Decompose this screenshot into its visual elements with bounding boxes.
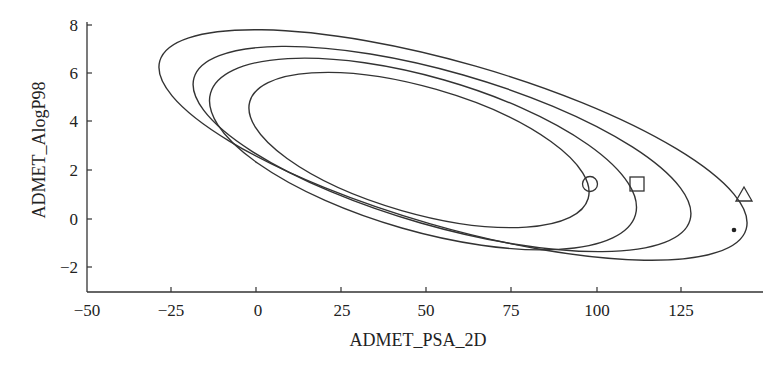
ellipse-2	[173, 4, 711, 294]
dot-marker	[732, 228, 737, 233]
circle-marker	[583, 177, 598, 192]
x-tick-label: 75	[503, 301, 520, 320]
y-tick-label: 0	[70, 210, 79, 229]
y-tick-label: 8	[70, 16, 79, 35]
x-tick-label: 0	[254, 301, 263, 320]
ellipse-3	[189, 19, 656, 289]
x-tick-label: 25	[334, 301, 351, 320]
x-tick-label: 125	[668, 301, 694, 320]
x-axis-title: ADMET_PSA_2D	[349, 330, 486, 350]
x-tick-label: −50	[74, 301, 101, 320]
x-ticks	[171, 287, 681, 292]
axes	[87, 22, 763, 292]
y-tick-label: 4	[70, 112, 79, 131]
y-tick-label: −2	[60, 258, 78, 277]
y-tick-label: 2	[70, 161, 79, 180]
x-tick-label: 100	[584, 301, 610, 320]
y-ticks	[87, 25, 92, 267]
chart-canvas: 8 6 4 2 0 −2 −50 −25 0 25 50 75 100 125 …	[0, 0, 782, 375]
y-axis-title: ADMET_AlogP98	[29, 81, 49, 218]
y-tick-label: 6	[70, 64, 79, 83]
x-tick-labels: −50 −25 0 25 50 75 100 125	[74, 301, 694, 320]
ellipse-outer	[137, 0, 769, 308]
ellipses	[137, 0, 769, 308]
markers	[583, 177, 753, 233]
y-tick-labels: 8 6 4 2 0 −2	[60, 16, 79, 277]
x-tick-label: 50	[418, 301, 435, 320]
x-tick-label: −25	[158, 301, 185, 320]
